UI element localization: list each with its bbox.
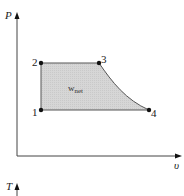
point-label-3: 3 bbox=[101, 54, 107, 65]
v-axis-label: υ bbox=[174, 160, 179, 171]
point-label-4: 4 bbox=[151, 108, 157, 119]
t-axis-arrow-icon bbox=[15, 183, 20, 190]
net-work-label: wnet bbox=[68, 84, 83, 95]
net-work-subscript: net bbox=[75, 87, 84, 95]
p-axis-label: P bbox=[5, 10, 12, 21]
state-point-1 bbox=[39, 108, 43, 112]
state-point-2 bbox=[39, 61, 43, 65]
t-axis-label: T bbox=[6, 181, 12, 192]
pv-diagram bbox=[0, 0, 184, 196]
point-label-2: 2 bbox=[32, 57, 38, 68]
point-label-1: 1 bbox=[32, 107, 38, 118]
net-work-area bbox=[41, 63, 149, 110]
p-axis-arrow-icon bbox=[15, 12, 20, 19]
v-axis-arrow-icon bbox=[175, 154, 182, 159]
